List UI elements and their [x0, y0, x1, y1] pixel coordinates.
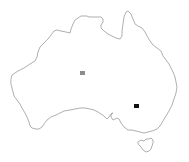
- location-marker-southeast[interactable]: marker-southeast: [134, 104, 139, 108]
- marker-id-southeast: marker-southeast: [134, 104, 135, 105]
- landmass-mainland: [11, 11, 177, 133]
- marker-id-central: marker-central: [80, 71, 81, 72]
- landmass-tasmania: [138, 138, 153, 152]
- location-marker-central[interactable]: marker-central: [80, 71, 85, 75]
- australia-map: marker-central marker-southeast Australi…: [0, 0, 189, 162]
- map-canvas: [0, 0, 189, 162]
